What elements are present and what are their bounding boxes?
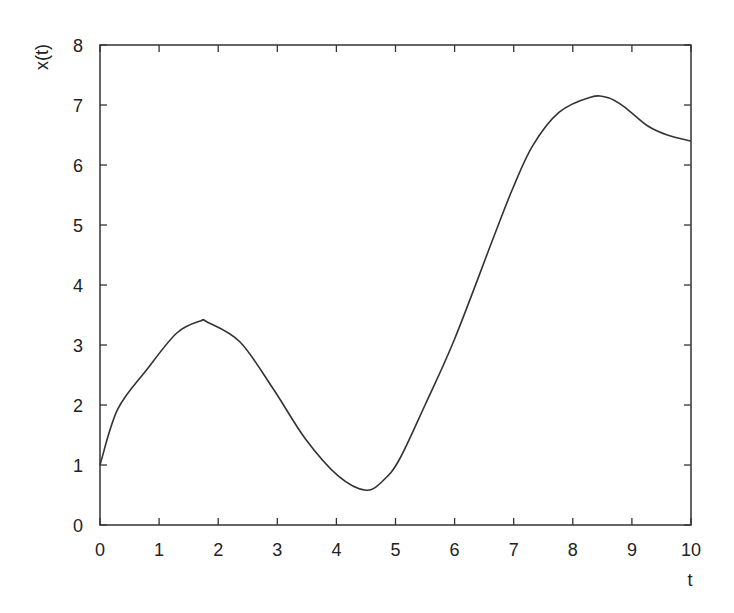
x-tick-label: 9 <box>627 540 637 560</box>
y-axis-label: x(t) <box>32 44 52 70</box>
y-tick-label: 7 <box>73 96 83 116</box>
y-tick-label: 1 <box>73 456 83 476</box>
x-axis-ticks: 012345678910 <box>95 45 701 560</box>
x-tick-label: 4 <box>331 540 341 560</box>
y-tick-label: 5 <box>73 216 83 236</box>
x-axis-label: t <box>687 570 692 590</box>
series-line-x-of-t <box>100 96 691 490</box>
plot-frame <box>100 45 691 525</box>
line-chart: 012345678910 012345678 t x(t) <box>0 0 734 613</box>
y-tick-label: 3 <box>73 336 83 356</box>
x-tick-label: 2 <box>213 540 223 560</box>
x-tick-label: 10 <box>681 540 701 560</box>
plot-border <box>100 45 691 525</box>
y-tick-label: 0 <box>73 516 83 536</box>
y-axis-ticks: 012345678 <box>73 36 691 536</box>
y-tick-label: 2 <box>73 396 83 416</box>
x-tick-label: 8 <box>568 540 578 560</box>
y-tick-label: 6 <box>73 156 83 176</box>
x-tick-label: 3 <box>272 540 282 560</box>
x-tick-label: 6 <box>450 540 460 560</box>
y-tick-label: 8 <box>73 36 83 56</box>
x-tick-label: 1 <box>154 540 164 560</box>
y-tick-label: 4 <box>73 276 83 296</box>
x-tick-label: 5 <box>390 540 400 560</box>
x-tick-label: 0 <box>95 540 105 560</box>
x-tick-label: 7 <box>509 540 519 560</box>
